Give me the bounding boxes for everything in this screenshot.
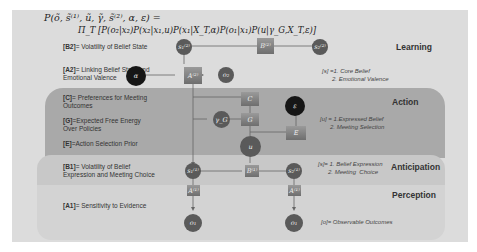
node-s2-t1: s₂⁽²⁾ (312, 39, 328, 55)
section-anticipation: Anticipation (391, 162, 440, 172)
note-anticipation: [s]= 1. Belief Expression 2. Meeting Cho… (318, 160, 383, 176)
node-s1-t1: s₂⁽¹⁾ (286, 163, 302, 179)
node-o2: o₂ (218, 67, 234, 83)
node-alpha: α (126, 66, 146, 86)
box-a2: A⁽²⁾ (184, 67, 202, 84)
label-e: [E]=Action Selection Prior (63, 140, 153, 148)
node-epsilon: ε (285, 96, 305, 116)
box-a1-right: A⁽¹⁾ (288, 185, 301, 196)
box-g: G (241, 113, 259, 126)
box-e: E (286, 126, 306, 140)
note-learning: [s] =1. Core Belief 2. Emotional Valence (322, 67, 388, 83)
node-s2-t: s₁⁽²⁾ (176, 39, 192, 55)
note-perception: [o]= Observable Outcomes (321, 218, 393, 226)
node-u: u (240, 136, 261, 157)
label-b2: [B2]= Volatility of Belief State (63, 43, 153, 51)
label-b1: [B1]= Volatility of Belief Expression an… (63, 163, 158, 179)
node-o1-left: o₁ (184, 214, 202, 232)
node-s1-t: s₁⁽¹⁾ (185, 163, 201, 179)
node-o1-right: o₁ (285, 214, 303, 232)
label-g: [G]=Expected Free Energy Over Policies (63, 117, 153, 133)
box-b1: B⁽¹⁾ (245, 165, 259, 177)
box-a1-left: A⁽¹⁾ (187, 185, 200, 196)
node-gamma: γ_G (213, 111, 230, 128)
section-perception: Perception (392, 190, 436, 200)
box-c: C (241, 92, 259, 106)
section-learning: Learning (396, 42, 432, 52)
label-c: [C]= Preferences for Meeting Outcomes (63, 94, 153, 110)
box-b2: B⁽²⁾ (257, 38, 274, 54)
label-a1: [A1]= Sensitivity to Evidence (63, 202, 153, 210)
note-action: [u] = 1.Expressed Belief 2. Meeting Sele… (320, 115, 384, 131)
section-action: Action (392, 97, 418, 107)
